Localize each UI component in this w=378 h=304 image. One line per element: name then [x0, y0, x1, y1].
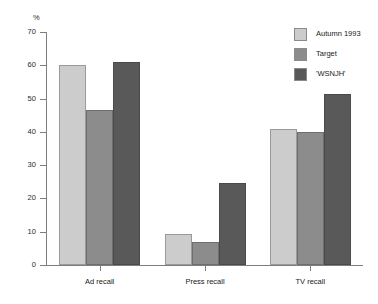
y-axis-tick-label: 10	[0, 228, 36, 236]
x-axis-tick-label: Ad recall	[40, 277, 160, 286]
y-axis-tick	[40, 165, 46, 166]
bar-ad-recall-series-0	[59, 65, 86, 265]
y-axis-tick	[40, 265, 46, 266]
bar-press-recall-series-0	[165, 234, 192, 265]
bar-tv-recall-series-2	[324, 94, 351, 265]
bar-tv-recall-series-1	[297, 132, 324, 265]
legend-item: Autumn 1993	[294, 26, 378, 46]
x-axis-tick-label: TV recall	[250, 277, 370, 286]
bar-press-recall-series-1	[192, 242, 219, 265]
bar-ad-recall-series-1	[86, 110, 113, 265]
y-axis-tick	[40, 198, 46, 199]
y-axis-tick-label: 70	[0, 28, 36, 36]
legend-swatch-icon	[294, 68, 307, 81]
legend-item: Target	[294, 46, 378, 66]
y-axis-tick-label: 20	[0, 194, 36, 202]
bar-tv-recall-series-0	[270, 129, 297, 265]
legend: Autumn 1993Target'WSNJH'	[294, 26, 378, 86]
legend-item: 'WSNJH'	[294, 66, 378, 86]
bar-press-recall-series-2	[219, 183, 246, 265]
x-axis-tick	[205, 266, 206, 271]
bar-ad-recall-series-2	[113, 62, 140, 265]
legend-swatch-icon	[294, 28, 307, 41]
y-axis-tick-label: 40	[0, 128, 36, 136]
bar-chart: % 010203040506070 Ad recallPress recallT…	[0, 0, 378, 304]
y-axis-tick	[40, 132, 46, 133]
y-axis-tick-label: 50	[0, 95, 36, 103]
y-axis-tick-label: 60	[0, 61, 36, 69]
legend-item-label: Autumn 1993	[316, 29, 361, 39]
y-axis-tick	[40, 32, 46, 33]
x-axis-tick	[100, 266, 101, 271]
y-axis-tick-label: 30	[0, 161, 36, 169]
x-axis-tick-label: Press recall	[145, 277, 265, 286]
legend-swatch-icon	[294, 48, 307, 61]
y-axis-tick	[40, 232, 46, 233]
legend-item-label: 'WSNJH'	[316, 69, 346, 79]
y-axis-tick	[40, 99, 46, 100]
x-axis-tick	[310, 266, 311, 271]
y-axis-tick-label: 0	[0, 261, 36, 269]
y-axis-tick	[40, 65, 46, 66]
legend-item-label: Target	[316, 49, 337, 59]
y-axis-unit-label: %	[33, 14, 40, 22]
